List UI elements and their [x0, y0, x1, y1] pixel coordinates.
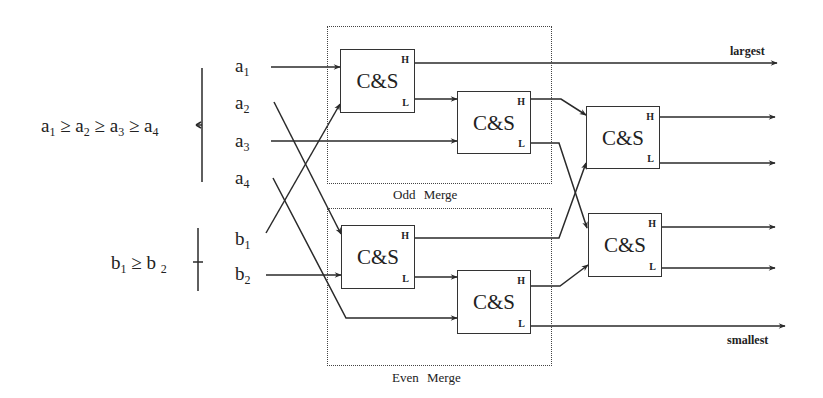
low-port-label: L	[518, 138, 525, 149]
low-port-label: L	[649, 261, 656, 272]
high-port-label: H	[517, 275, 525, 286]
input-b1: b1	[235, 229, 251, 251]
cs-unit-1: C&S H L	[340, 49, 415, 113]
low-port-label: L	[402, 273, 409, 284]
high-port-label: H	[648, 218, 656, 229]
largest-output-label: largest	[730, 45, 765, 57]
high-port-label: H	[401, 54, 409, 65]
cs-unit-6: C&S H L	[588, 213, 662, 277]
input-a2: a2	[235, 93, 249, 115]
cs-unit-4: C&S H L	[341, 225, 415, 289]
cs-unit-2: C&S H L	[457, 91, 531, 154]
cs-unit-5: C&S H L	[457, 270, 531, 334]
low-port-label: L	[647, 153, 654, 164]
low-port-label: L	[518, 318, 525, 329]
cs-unit-label: C&S	[342, 245, 414, 270]
cs-unit-label: C&S	[587, 125, 659, 150]
input-a3: a3	[235, 131, 249, 153]
input-b2: b2	[235, 264, 251, 286]
b-ordering-condition: b1 ≥ b 2	[111, 253, 167, 275]
cs-unit-label: C&S	[458, 290, 530, 315]
cs-unit-label: C&S	[458, 110, 530, 135]
high-port-label: H	[517, 96, 525, 107]
a-ordering-condition: a1 ≥ a2 ≥ a3 ≥ a4	[41, 116, 159, 138]
low-port-label: L	[402, 97, 409, 108]
cs-unit-label: C&S	[589, 233, 661, 258]
cs-unit-3: C&S H L	[586, 106, 660, 169]
even-merge-label: Even Merge	[392, 371, 461, 384]
high-port-label: H	[646, 111, 654, 122]
input-a4: a4	[235, 168, 249, 190]
smallest-output-label: smallest	[727, 334, 768, 346]
odd-merge-label: Odd Merge	[393, 188, 457, 201]
high-port-label: H	[401, 230, 409, 241]
input-a1: a1	[235, 56, 249, 78]
cs-unit-label: C&S	[341, 69, 414, 94]
